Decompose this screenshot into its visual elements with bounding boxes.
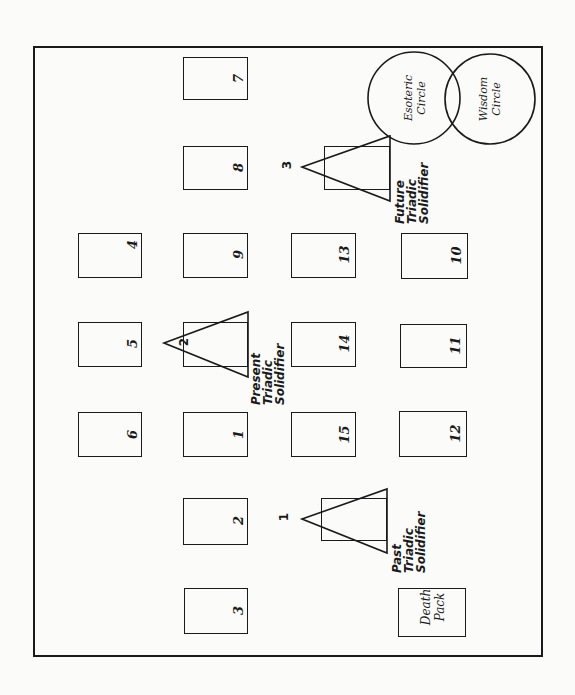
card-1[interactable]: 1 (183, 412, 248, 457)
card-number: 5 (125, 339, 140, 348)
card-number: 14 (336, 334, 351, 352)
card-5[interactable]: 5 (78, 322, 142, 367)
card-number: 15 (336, 425, 351, 443)
card-6[interactable]: 6 (78, 412, 142, 457)
card-number: 12 (447, 424, 462, 442)
card-past-solidifier[interactable] (321, 498, 387, 541)
card-4[interactable]: 4 (78, 233, 142, 278)
present-solidifier-label: Present Triadic Solidifier (250, 344, 286, 405)
card-14[interactable]: 14 (291, 322, 356, 367)
card-number: 7 (231, 74, 246, 83)
card-future-solidifier[interactable] (324, 146, 390, 190)
death-pack-label: Death Pack (419, 585, 447, 629)
card-7[interactable]: 7 (183, 57, 248, 100)
card-number: 6 (125, 430, 140, 439)
card-number: 3 (231, 606, 246, 615)
wisdom-circle-label: Wisdom Circle (477, 69, 503, 129)
future-solidifier-number: 3 (280, 161, 294, 169)
card-number: 1 (231, 430, 246, 439)
card-number: 4 (125, 240, 140, 249)
card-11[interactable]: 11 (400, 324, 467, 368)
card-8[interactable]: 8 (183, 146, 248, 190)
past-solidifier-label: Past Triadic Solidifier (391, 512, 427, 573)
esoteric-circle-label: Esoteric Circle (402, 68, 428, 128)
card-number: 10 (448, 246, 463, 264)
card-2[interactable]: 2 (183, 498, 248, 545)
card-13[interactable]: 13 (291, 233, 356, 278)
card-3[interactable]: 3 (184, 588, 248, 634)
card-present-solidifier[interactable] (183, 322, 248, 367)
card-number: 13 (336, 245, 351, 263)
card-12[interactable]: 12 (399, 411, 467, 457)
card-10[interactable]: 10 (401, 233, 468, 279)
present-solidifier-number: 2 (177, 338, 191, 346)
card-number: 2 (231, 516, 246, 525)
card-9[interactable]: 9 (183, 233, 248, 278)
card-number: 11 (447, 336, 462, 354)
card-15[interactable]: 15 (291, 412, 356, 457)
past-solidifier-number: 1 (277, 513, 291, 521)
death-pack[interactable]: Death Pack (398, 588, 466, 637)
card-number: 8 (231, 163, 246, 172)
card-number: 9 (231, 250, 246, 259)
future-solidifier-label: Future Triadic Solidifier (394, 163, 430, 224)
